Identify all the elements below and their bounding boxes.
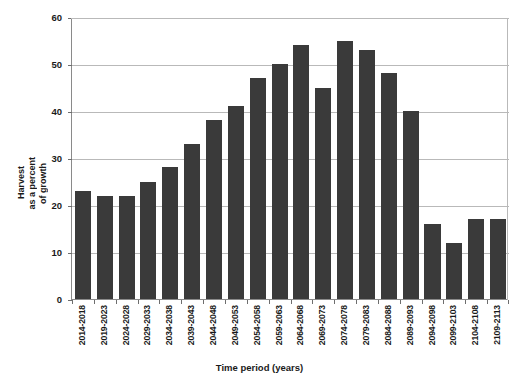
x-tick-mark — [508, 300, 509, 304]
x-tick-label: 2024-2028 — [121, 305, 131, 345]
x-tick-label: 2079-2083 — [361, 305, 371, 345]
y-tick-mark — [68, 18, 72, 19]
bar — [359, 50, 375, 299]
x-tick-mark — [400, 300, 401, 304]
x-tick-mark — [422, 300, 423, 304]
x-tick-mark — [203, 300, 204, 304]
y-tick-mark — [68, 112, 72, 113]
bar — [490, 219, 506, 299]
x-tick-mark — [94, 300, 95, 304]
y-tick-label: 60 — [0, 12, 62, 23]
x-tick-label: 2014-2018 — [77, 305, 87, 345]
x-tick-label: 2044-2048 — [208, 305, 218, 345]
x-tick-label: 2054-2058 — [252, 305, 262, 345]
y-gridline — [72, 65, 509, 66]
bar — [140, 182, 156, 300]
x-tick-label: 2034-2038 — [164, 305, 174, 345]
bar — [228, 106, 244, 299]
x-tick-label: 2074-2078 — [339, 305, 349, 345]
bar — [424, 224, 440, 299]
y-tick-label: 30 — [0, 153, 62, 164]
x-tick-mark — [378, 300, 379, 304]
bar — [75, 191, 91, 299]
y-tick-label: 10 — [0, 247, 62, 258]
x-tick-label: 2094-2098 — [427, 305, 437, 345]
y-axis-title-line: of growth — [38, 163, 49, 204]
bar — [250, 78, 266, 299]
y-axis-title-line: Harvest — [16, 166, 27, 199]
x-tick-mark — [334, 300, 335, 304]
y-tick-label: 40 — [0, 106, 62, 117]
bar — [97, 196, 113, 299]
bar — [293, 45, 309, 299]
bar — [206, 120, 222, 299]
y-tick-mark — [68, 159, 72, 160]
x-tick-mark — [247, 300, 248, 304]
bar — [381, 73, 397, 299]
bar — [403, 111, 419, 299]
x-tick-label: 2089-2093 — [405, 305, 415, 345]
y-gridline — [72, 206, 509, 207]
x-tick-mark — [312, 300, 313, 304]
x-tick-label: 2059-2063 — [274, 305, 284, 345]
bar-chart-figure: Harvestas a percentof growth Time period… — [0, 0, 519, 384]
x-tick-mark — [269, 300, 270, 304]
bar — [184, 144, 200, 299]
x-tick-label: 2049-2053 — [230, 305, 240, 345]
x-tick-label: 2109-2113 — [492, 305, 502, 345]
x-tick-mark — [443, 300, 444, 304]
bar — [468, 219, 484, 299]
x-tick-label: 2084-2088 — [383, 305, 393, 345]
x-tick-label: 2029-2033 — [142, 305, 152, 345]
x-tick-label: 2064-2068 — [295, 305, 305, 345]
x-tick-mark — [138, 300, 139, 304]
x-tick-label: 2039-2043 — [186, 305, 196, 345]
y-tick-label: 20 — [0, 200, 62, 211]
x-tick-mark — [225, 300, 226, 304]
bar — [119, 196, 135, 299]
x-tick-mark — [181, 300, 182, 304]
plot-area — [71, 18, 508, 300]
bar — [446, 243, 462, 299]
y-gridline — [72, 18, 509, 19]
y-tick-mark — [68, 206, 72, 207]
bar — [162, 167, 178, 299]
y-gridline — [72, 159, 509, 160]
x-tick-mark — [356, 300, 357, 304]
x-tick-mark — [72, 300, 73, 304]
x-tick-mark — [487, 300, 488, 304]
y-tick-label: 50 — [0, 59, 62, 70]
x-tick-mark — [116, 300, 117, 304]
x-axis-title: Time period (years) — [0, 362, 519, 373]
x-tick-label: 2019-2023 — [99, 305, 109, 345]
x-tick-label: 2104-2108 — [470, 305, 480, 345]
y-gridline — [72, 253, 509, 254]
y-axis-title: Harvestas a percentof growth — [8, 118, 56, 248]
y-gridline — [72, 112, 509, 113]
x-tick-label: 2069-2073 — [317, 305, 327, 345]
x-tick-mark — [465, 300, 466, 304]
y-tick-label: 0 — [0, 294, 62, 305]
y-tick-mark — [68, 65, 72, 66]
x-tick-mark — [291, 300, 292, 304]
bar — [315, 88, 331, 300]
x-tick-label: 2099-2103 — [448, 305, 458, 345]
bar — [337, 41, 353, 300]
y-tick-mark — [68, 253, 72, 254]
x-tick-mark — [159, 300, 160, 304]
bar — [272, 64, 288, 299]
